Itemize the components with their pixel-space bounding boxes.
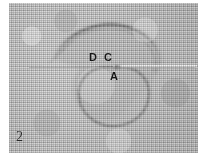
micrograph-plate: D C A 2 [9, 3, 198, 153]
label-a: A [110, 71, 118, 82]
figure-container: D C A 2 [0, 0, 198, 156]
label-c: C [104, 52, 112, 63]
label-d: D [89, 52, 97, 63]
figure-number: 2 [16, 129, 23, 145]
plate-grain [9, 3, 198, 153]
